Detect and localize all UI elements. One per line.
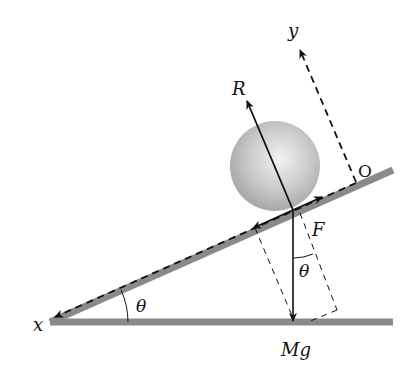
incline-diagram: x y O R F Mg θ θ — [0, 0, 419, 382]
component-dash-left — [255, 228, 293, 318]
angle-label-weight: θ — [299, 261, 309, 281]
friction-label: F — [311, 219, 326, 240]
y-axis-label: y — [287, 20, 299, 41]
origin-label: O — [358, 161, 372, 181]
angle-label-incline: θ — [136, 296, 146, 316]
x-axis-label: x — [33, 314, 43, 335]
angle-arc-weight — [294, 254, 313, 258]
weight-label: Mg — [280, 339, 311, 360]
incline-surface — [50, 170, 393, 322]
normal-force-label: R — [231, 78, 246, 99]
angle-arc-incline — [121, 290, 128, 322]
